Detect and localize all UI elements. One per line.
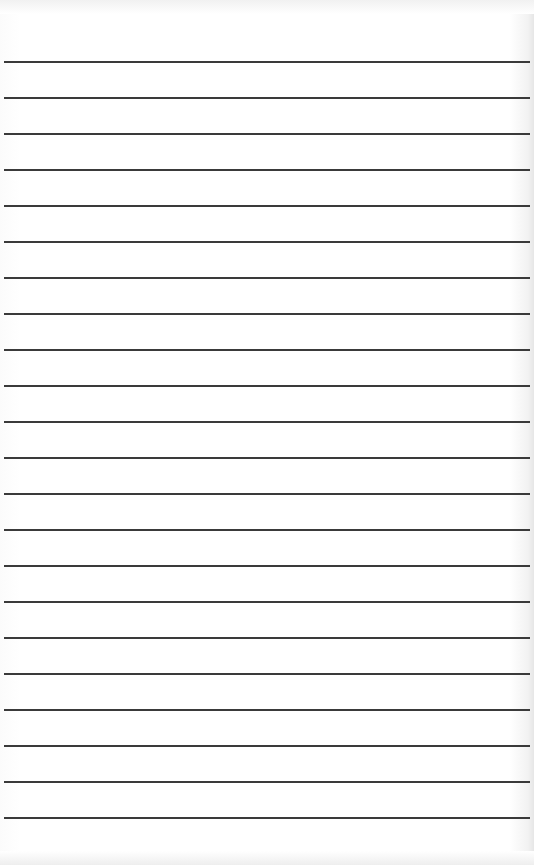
- ruled-line: [4, 637, 530, 639]
- ruled-line: [4, 421, 530, 423]
- ruled-line: [4, 817, 530, 819]
- bottom-edge-shading: [0, 851, 534, 865]
- ruled-line: [4, 205, 530, 207]
- ruled-line: [4, 61, 530, 63]
- ruled-line: [4, 673, 530, 675]
- ruled-line: [4, 745, 530, 747]
- ruled-line: [4, 565, 530, 567]
- ruled-line: [4, 493, 530, 495]
- ruled-line: [4, 241, 530, 243]
- ruled-line: [4, 385, 530, 387]
- ruled-line: [4, 277, 530, 279]
- ruled-line: [4, 97, 530, 99]
- ruled-line: [4, 709, 530, 711]
- ruled-line: [4, 781, 530, 783]
- ruled-line: [4, 601, 530, 603]
- ruled-line: [4, 133, 530, 135]
- ruled-line: [4, 313, 530, 315]
- ruled-line: [4, 349, 530, 351]
- top-edge-shading: [0, 0, 534, 14]
- ruled-line: [4, 169, 530, 171]
- ruled-line: [4, 529, 530, 531]
- lined-paper: [0, 0, 534, 865]
- ruled-line: [4, 457, 530, 459]
